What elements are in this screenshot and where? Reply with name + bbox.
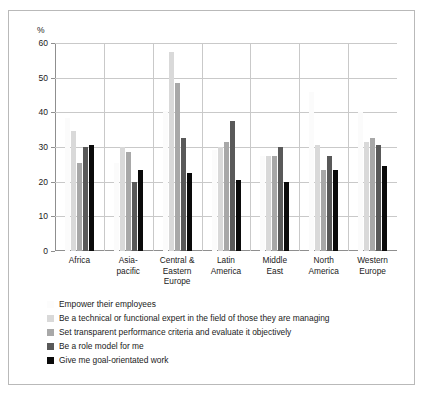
- x-axis-category-label-line: Western: [348, 255, 397, 266]
- x-axis-category-label-line: Central &: [153, 255, 202, 266]
- x-axis-category-label-line: North: [299, 255, 348, 266]
- y-axis-tick-label: 30: [39, 142, 48, 152]
- y-axis-tick-label: 10: [39, 211, 48, 221]
- bar-group: [55, 43, 104, 251]
- y-axis-unit-label: %: [37, 25, 45, 35]
- legend-label: Empower their employees: [59, 298, 156, 311]
- legend-item: Set transparent performance criteria and…: [47, 326, 397, 340]
- chart-legend: Empower their employeesBe a technical or…: [47, 298, 397, 368]
- y-axis-tick: [51, 251, 55, 252]
- bar: [315, 145, 320, 251]
- chart-figure: % 0102030405060 AfricaAsia-pacificCentra…: [8, 10, 415, 385]
- bar: [382, 166, 387, 251]
- bar: [224, 142, 229, 251]
- bar: [77, 163, 82, 251]
- bar: [376, 145, 381, 251]
- bar: [260, 156, 265, 251]
- legend-item: Be a role model for me: [47, 340, 397, 354]
- legend-swatch: [47, 343, 54, 350]
- bar-group: [104, 43, 153, 251]
- bar: [212, 150, 217, 251]
- x-axis-category-label: Central &EasternEurope: [153, 255, 202, 287]
- legend-swatch: [47, 315, 54, 322]
- legend-label: Be a role model for me: [59, 340, 144, 353]
- bar: [83, 147, 88, 251]
- legend-swatch: [47, 357, 54, 364]
- bar: [181, 138, 186, 251]
- plot-wrap: % 0102030405060 AfricaAsia-pacificCentra…: [9, 11, 416, 261]
- bar: [169, 52, 174, 251]
- plot-area: 0102030405060: [55, 43, 397, 251]
- bar-group: [299, 43, 348, 251]
- bar: [120, 147, 125, 251]
- x-axis-category-label: MiddleEast: [250, 255, 299, 276]
- x-axis-category-label: LatinAmerica: [202, 255, 251, 276]
- bar: [278, 147, 283, 251]
- x-axis-category-label-line: Europe: [348, 266, 397, 277]
- bar: [309, 92, 314, 251]
- bar: [236, 180, 241, 251]
- y-axis-tick-label: 40: [39, 107, 48, 117]
- x-axis-category-label-line: East: [250, 266, 299, 277]
- bar: [370, 138, 375, 251]
- bar: [175, 83, 180, 251]
- bar: [358, 112, 363, 251]
- legend-label: Give me goal-orientated work: [59, 354, 168, 367]
- bar: [163, 111, 168, 251]
- bar: [266, 156, 271, 251]
- x-axis-category-label-line: Latin: [202, 255, 251, 266]
- x-axis-category-label: NorthAmerica: [299, 255, 348, 276]
- x-axis-category-label: Africa: [55, 255, 104, 266]
- x-axis-category-label-line: Africa: [55, 255, 104, 266]
- legend-swatch: [47, 301, 54, 308]
- bar-group: [202, 43, 251, 251]
- bar: [71, 131, 76, 251]
- bar: [114, 163, 119, 251]
- bar: [272, 156, 277, 251]
- bar: [327, 156, 332, 251]
- bar: [333, 170, 338, 251]
- bar: [126, 152, 131, 251]
- bar: [284, 182, 289, 251]
- bar: [364, 142, 369, 251]
- x-axis-category-label-line: Europe: [153, 276, 202, 287]
- x-axis-category-label-line: America: [202, 266, 251, 277]
- x-axis-category-label: Asia-pacific: [104, 255, 153, 276]
- y-axis-tick-label: 50: [39, 73, 48, 83]
- bar: [138, 170, 143, 251]
- legend-item: Be a technical or functional expert in t…: [47, 312, 397, 326]
- x-axis-category-label-line: America: [299, 266, 348, 277]
- bar-group: [250, 43, 299, 251]
- legend-label: Be a technical or functional expert in t…: [59, 312, 330, 325]
- legend-swatch: [47, 329, 54, 336]
- y-axis-tick-label: 60: [39, 38, 48, 48]
- x-axis-category-label-line: pacific: [104, 266, 153, 277]
- legend-label: Set transparent performance criteria and…: [59, 326, 291, 339]
- bar: [132, 182, 137, 251]
- bar-group: [153, 43, 202, 251]
- y-axis-tick-label: 20: [39, 177, 48, 187]
- x-axis-category-label-line: Asia-: [104, 255, 153, 266]
- bar: [187, 173, 192, 251]
- bar-group: [348, 43, 397, 251]
- x-axis-category-label: WesternEurope: [348, 255, 397, 276]
- x-axis-category-label-line: Middle: [250, 255, 299, 266]
- bar: [65, 118, 70, 251]
- bar: [230, 121, 235, 251]
- bar: [218, 147, 223, 251]
- legend-item: Give me goal-orientated work: [47, 354, 397, 368]
- bar: [321, 170, 326, 251]
- y-axis-tick-label: 0: [43, 246, 48, 256]
- legend-item: Empower their employees: [47, 298, 397, 312]
- bar: [89, 145, 94, 251]
- x-axis-category-label-line: Eastern: [153, 266, 202, 277]
